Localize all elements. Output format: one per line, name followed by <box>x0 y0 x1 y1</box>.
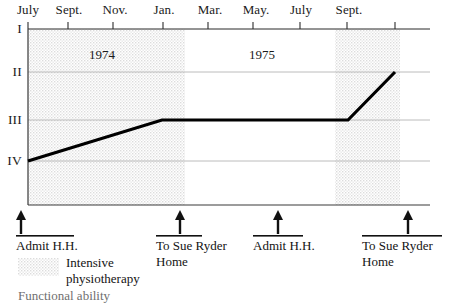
event-label-admit-hh-2: Admit H.H. <box>253 238 315 254</box>
event-label-sue-ryder-home-1: To Sue Ryder Home <box>156 238 227 269</box>
y-tick-label-IV: IV <box>7 154 22 168</box>
event-label-admit-hh-1: Admit H.H. <box>16 238 78 254</box>
y-tick-label-II: II <box>13 65 22 79</box>
x-tick-label-0: July <box>17 2 39 17</box>
event-arrow-3 <box>253 210 303 237</box>
year-annotation-1975: 1975 <box>249 47 275 62</box>
year-annotation-1974: 1974 <box>89 47 115 62</box>
event-arrows <box>16 210 442 237</box>
x-axis-ticks <box>28 22 395 29</box>
x-tick-label-1: Sept. <box>56 2 83 17</box>
legend-swatch-physiotherapy <box>18 258 59 276</box>
event-arrow-2 <box>156 210 202 237</box>
caption-functional-ability: Functional ability <box>18 288 110 303</box>
x-tick-label-2: Nov. <box>102 2 127 17</box>
x-tick-label-5: May. <box>243 2 270 17</box>
event-label-sue-ryder-home-2: To Sue Ryder Home <box>362 238 433 269</box>
x-tick-label-4: Mar. <box>198 2 223 17</box>
legend-label-physiotherapy: Intensive physiotherapy <box>66 255 140 287</box>
shaded-band-physiotherapy-2 <box>335 29 400 205</box>
event-arrow-1 <box>16 210 74 237</box>
x-tick-label-7: Sept. <box>336 2 363 17</box>
event-arrow-4 <box>362 210 442 237</box>
x-tick-label-6: July <box>290 2 312 17</box>
y-tick-label-III: III <box>8 113 22 127</box>
y-tick-label-I: I <box>17 22 22 36</box>
x-tick-label-3: Jan. <box>154 2 175 17</box>
